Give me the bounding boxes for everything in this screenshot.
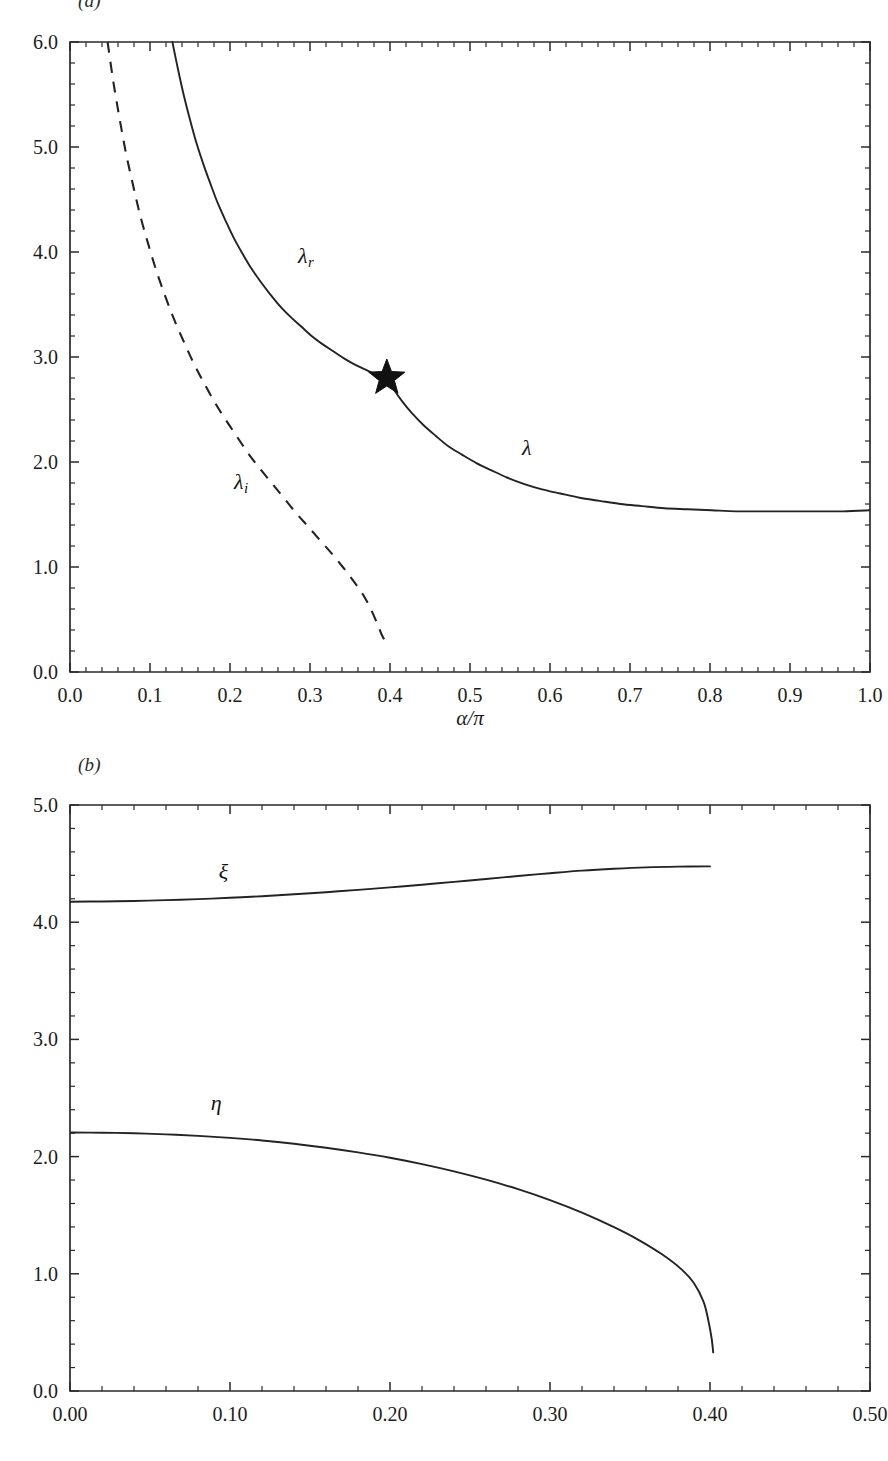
xtick-label: 0.40 — [693, 1403, 728, 1426]
xtick-label: 1.0 — [858, 684, 883, 707]
ytick-label: 3.0 — [4, 1028, 58, 1051]
panel-a-xaxis-title: α/π — [400, 706, 540, 731]
xtick-label: 0.10 — [213, 1403, 248, 1426]
xtick-label: 0.2 — [218, 684, 243, 707]
xtick-label: 0.20 — [373, 1403, 408, 1426]
ytick-label: 4.0 — [4, 911, 58, 934]
panel-b-plot — [0, 740, 887, 1461]
xtick-label: 0.50 — [853, 1403, 888, 1426]
lambda-r-label: λr — [298, 243, 314, 271]
lambda-i-label-subscript: i — [244, 480, 248, 496]
ytick-label: 3.0 — [4, 346, 58, 369]
xtick-label: 0.4 — [378, 684, 403, 707]
ytick-label: 0.0 — [4, 661, 58, 684]
panel-a-plot — [0, 0, 887, 740]
xtick-label: 0.30 — [533, 1403, 568, 1426]
ytick-label: 6.0 — [4, 31, 58, 54]
xtick-label: 0.6 — [538, 684, 563, 707]
xtick-label: 0.5 — [458, 684, 483, 707]
ytick-label: 5.0 — [4, 136, 58, 159]
ytick-label: 1.0 — [4, 556, 58, 579]
ytick-label: 2.0 — [4, 1145, 58, 1168]
ytick-label: 4.0 — [4, 241, 58, 264]
xtick-label: 0.3 — [298, 684, 323, 707]
ytick-label: 1.0 — [4, 1262, 58, 1285]
xtick-label: 0.1 — [138, 684, 163, 707]
xtick-label: 0.0 — [58, 684, 83, 707]
eta-label: η — [211, 1090, 222, 1116]
panel-a: (a) 0.00.10.20.30.40.50.60.70.80.91.00.0… — [0, 0, 887, 740]
lambda-i-label: λi — [234, 469, 248, 497]
xtick-label: 0.9 — [778, 684, 803, 707]
lambda-label: λ — [522, 435, 532, 461]
panel-b: (b) 0.000.100.200.300.400.500.01.02.03.0… — [0, 740, 887, 1461]
lambda-r-label-subscript: r — [308, 254, 314, 270]
xtick-label: 0.00 — [53, 1403, 88, 1426]
ytick-label: 5.0 — [4, 794, 58, 817]
xtick-label: 0.8 — [698, 684, 723, 707]
ytick-label: 2.0 — [4, 451, 58, 474]
xtick-label: 0.7 — [618, 684, 643, 707]
xi-label: ξ — [219, 859, 228, 885]
ytick-label: 0.0 — [4, 1380, 58, 1403]
